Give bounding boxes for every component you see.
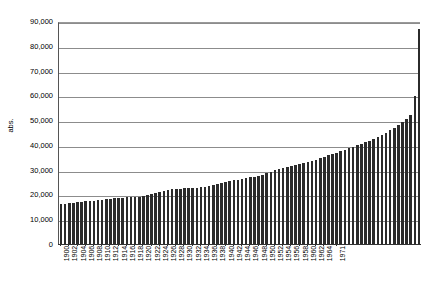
bar [409, 115, 412, 245]
bar [101, 200, 104, 245]
bar [315, 160, 318, 245]
x-tick-label: 1936 [211, 246, 218, 261]
bar [418, 29, 421, 245]
x-tick-label: 1912 [112, 246, 119, 261]
x-tick-label: 1934 [203, 246, 210, 261]
bar [327, 155, 330, 245]
x-tickmark [225, 244, 226, 246]
y-tick-label: 80,000 [30, 43, 53, 51]
bar [228, 181, 231, 245]
x-axis-line [58, 244, 421, 245]
bar [298, 164, 301, 245]
y-tick-label: 0 [49, 241, 53, 249]
bar [224, 182, 227, 245]
bar [311, 161, 314, 245]
bar [171, 189, 174, 245]
bar [265, 173, 268, 245]
bar [274, 170, 277, 245]
x-tick-label: 1910 [104, 246, 111, 261]
y-tick-label: 60,000 [30, 93, 53, 101]
x-tickmark [167, 244, 168, 246]
x-tickmark [159, 244, 160, 246]
bar [200, 187, 203, 245]
bar [335, 153, 338, 245]
bar [237, 180, 240, 245]
x-tickmark [109, 244, 110, 246]
x-tick-label: 1916 [129, 246, 136, 261]
bar [290, 166, 293, 245]
bar [89, 201, 92, 245]
x-tick-label: 1946 [252, 246, 259, 261]
bar [397, 125, 400, 245]
bar [117, 198, 120, 245]
x-tickmark [101, 244, 102, 246]
bar [64, 204, 67, 245]
x-tick-label: 1944 [244, 246, 251, 261]
x-tick-label: 1940 [228, 246, 235, 261]
plot-area [58, 22, 420, 245]
y-tick-label: 30,000 [30, 167, 53, 175]
x-tick-label: 1904 [80, 246, 87, 261]
bar [393, 128, 396, 245]
bar [76, 202, 79, 245]
bar [142, 196, 145, 245]
y-tick-label: 70,000 [30, 68, 53, 76]
x-tickmark [200, 244, 201, 246]
bar [204, 187, 207, 245]
x-tickmark [323, 244, 324, 246]
bar [138, 197, 141, 245]
bar [109, 199, 112, 245]
bar [381, 135, 384, 245]
x-tick-label: 1926 [170, 246, 177, 261]
bar [191, 188, 194, 245]
x-tick-label: 1918 [137, 246, 144, 261]
y-tick-label: 90,000 [30, 18, 53, 26]
bar [60, 204, 63, 245]
bar [307, 162, 310, 245]
x-tick-label: 1938 [219, 246, 226, 261]
x-tick-label: 1922 [154, 246, 161, 261]
x-tickmark [183, 244, 184, 246]
x-axis-tick-labels: 1900190219041906190819101912191419161918… [58, 246, 420, 283]
x-tickmark [282, 244, 283, 246]
bar [130, 197, 133, 245]
bar [249, 177, 252, 245]
x-tick-label: 1928 [178, 246, 185, 261]
bar [154, 193, 157, 245]
x-tickmark [208, 244, 209, 246]
bar [323, 157, 326, 245]
x-tickmark [307, 244, 308, 246]
x-tick-label: 1914 [121, 246, 128, 261]
bar [179, 189, 182, 245]
bar [212, 185, 215, 245]
x-tickmark [336, 244, 337, 246]
x-tick-label: 1964 [326, 246, 333, 261]
x-tick-label: 1900 [63, 246, 70, 261]
x-tick-label: 1962 [318, 246, 325, 261]
bar [331, 154, 334, 245]
bars-layer [59, 23, 420, 245]
y-tick-label: 20,000 [30, 192, 53, 200]
x-tickmark [290, 244, 291, 246]
bar [282, 168, 285, 245]
bar [344, 150, 347, 245]
bar [216, 184, 219, 245]
bar [377, 137, 380, 245]
bar [175, 189, 178, 245]
bar [261, 175, 264, 245]
bar [126, 197, 129, 245]
bar [220, 183, 223, 245]
bar [270, 172, 273, 245]
x-tickmark [151, 244, 152, 246]
bar [364, 142, 367, 245]
y-tick-label: 40,000 [30, 142, 53, 150]
x-tickmark [118, 244, 119, 246]
x-tick-label: 1942 [236, 246, 243, 261]
bar [253, 177, 256, 245]
bar [245, 178, 248, 245]
x-tick-label: 1958 [302, 246, 309, 261]
bar [183, 188, 186, 245]
bar [97, 200, 100, 245]
x-tick-label: 1908 [96, 246, 103, 261]
bar [134, 197, 137, 245]
